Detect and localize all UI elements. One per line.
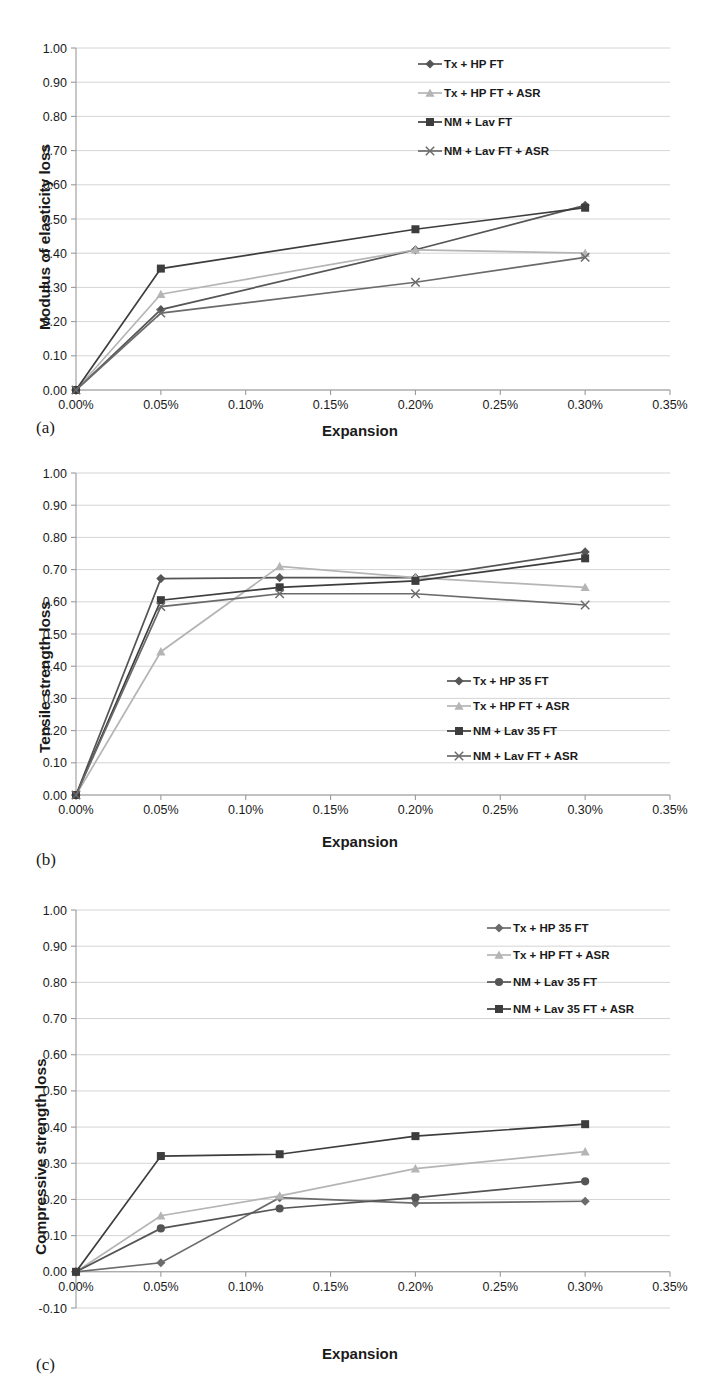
- panel-b-y-axis-title: Tensile strength loss: [36, 601, 54, 753]
- y-tick-label: 0.00: [43, 789, 67, 803]
- legend-label: NM + Lav FT + ASR: [444, 145, 550, 157]
- panel-a-label: (a): [36, 418, 55, 438]
- legend-label: Tx + HP 35 FT: [513, 922, 589, 934]
- legend-item[interactable]: NM + Lav FT + ASR: [447, 750, 579, 762]
- panel-c-chart-svg: 1.000.900.800.700.600.500.400.300.200.10…: [0, 880, 706, 1378]
- legend-item[interactable]: Tx + HP FT + ASR: [447, 700, 570, 712]
- panel-a-y-axis-title: Modulus of elasticity loss: [36, 144, 54, 330]
- legend-label: Tx + HP 35 FT: [473, 675, 549, 687]
- x-tick-label: 0.00%: [58, 398, 93, 412]
- y-tick-label: 0.90: [43, 499, 67, 513]
- y-tick-label: 0.00: [43, 384, 67, 398]
- y-tick-label: 1.00: [43, 904, 67, 918]
- legend-marker-diamond-icon: [494, 923, 503, 932]
- panel-b-figure: 1.000.900.800.700.600.500.400.300.200.10…: [0, 455, 706, 880]
- legend-label: NM + Lav FT: [444, 116, 512, 128]
- x-tick-label: 0.35%: [652, 1280, 687, 1294]
- data-point: [157, 265, 165, 273]
- x-tick-label: 0.30%: [567, 803, 602, 817]
- y-tick-label: 0.00: [43, 1265, 67, 1279]
- data-point: [411, 1132, 419, 1140]
- legend-item[interactable]: NM + Lav 35 FT: [487, 976, 597, 988]
- y-tick-label: 0.80: [43, 531, 67, 545]
- series-0: [71, 201, 589, 395]
- panel-c-x-axis-title: Expansion: [280, 1345, 440, 1362]
- series-line: [76, 594, 585, 795]
- legend-item[interactable]: NM + Lav 35 FT + ASR: [487, 1003, 635, 1015]
- panel-a-chart-svg: 1.000.900.800.700.600.500.400.300.200.10…: [0, 0, 706, 455]
- legend-item[interactable]: Tx + HP 35 FT: [447, 675, 549, 687]
- data-point: [411, 225, 419, 233]
- y-tick-label: 0.70: [43, 563, 67, 577]
- series-line: [76, 1152, 585, 1272]
- panel-b-chart-svg: 1.000.900.800.700.600.500.400.300.200.10…: [0, 455, 706, 880]
- y-tick-label: 0.80: [43, 110, 67, 124]
- legend-item[interactable]: NM + Lav 35 FT: [447, 725, 557, 737]
- data-point: [72, 1268, 80, 1276]
- legend-label: NM + Lav 35 FT: [513, 976, 597, 988]
- series-1: [71, 1147, 589, 1275]
- data-point: [581, 1177, 589, 1185]
- series-3: [72, 253, 590, 394]
- data-point: [275, 573, 284, 582]
- legend-item[interactable]: NM + Lav FT + ASR: [418, 145, 550, 157]
- panel-a-figure: 1.000.900.800.700.600.500.400.300.200.10…: [0, 0, 706, 455]
- panel-a-x-axis-title: Expansion: [280, 422, 440, 439]
- gridlines: [76, 48, 670, 390]
- data-point: [156, 574, 165, 583]
- series-line: [76, 1181, 585, 1271]
- data-point: [276, 1150, 284, 1158]
- x-tick-label: 0.25%: [483, 803, 518, 817]
- series-3: [72, 1120, 589, 1276]
- y-tick-label: 1.00: [43, 42, 67, 56]
- gridlines: [76, 910, 670, 1308]
- legend-label: NM + Lav FT + ASR: [473, 750, 579, 762]
- y-tick-label: 0.90: [43, 76, 67, 90]
- panel-c-y-axis-title: Compressive strength loss: [32, 1059, 50, 1255]
- series-line: [76, 1124, 585, 1272]
- legend-marker-square-icon: [426, 118, 434, 126]
- data-point: [156, 1258, 165, 1267]
- legend-item[interactable]: Tx + HP FT + ASR: [418, 87, 541, 99]
- series-3: [72, 590, 590, 800]
- x-tick-label: 0.35%: [652, 803, 687, 817]
- gridlines: [76, 473, 670, 795]
- series-line: [76, 205, 585, 390]
- x-tick-label: 0.05%: [143, 1280, 178, 1294]
- x-tick-label: 0.10%: [228, 1280, 263, 1294]
- x-tick-label: 0.15%: [313, 1280, 348, 1294]
- legend-item[interactable]: Tx + HP 35 FT: [487, 922, 589, 934]
- legend-label: Tx + HP FT + ASR: [444, 87, 541, 99]
- x-axis-ticks: 0.00%0.05%0.10%0.15%0.20%0.25%0.30%0.35%: [58, 795, 687, 817]
- x-tick-label: 0.05%: [143, 398, 178, 412]
- legend-marker-circle-icon: [495, 978, 503, 986]
- data-point: [581, 554, 589, 562]
- legend-label: Tx + HP FT + ASR: [473, 700, 570, 712]
- x-tick-label: 0.15%: [313, 803, 348, 817]
- data-point: [411, 577, 419, 585]
- panel-c-label: (c): [36, 1355, 55, 1375]
- x-tick-label: 0.25%: [483, 398, 518, 412]
- series-line: [76, 257, 585, 390]
- legend-item[interactable]: NM + Lav FT: [418, 116, 512, 128]
- legend-marker-square-icon: [495, 1005, 503, 1013]
- legend-item[interactable]: Tx + HP FT + ASR: [487, 949, 610, 961]
- legend-label: Tx + HP FT: [444, 58, 504, 70]
- x-tick-label: 0.00%: [58, 803, 93, 817]
- y-tick-label: 1.00: [43, 467, 67, 481]
- legend-marker-diamond-icon: [454, 676, 463, 685]
- series-line: [76, 208, 585, 390]
- data-point: [581, 204, 589, 212]
- x-tick-label: 0.20%: [398, 803, 433, 817]
- legend-item[interactable]: Tx + HP FT: [418, 58, 504, 70]
- legend-label: Tx + HP FT + ASR: [513, 949, 610, 961]
- series-2: [72, 204, 589, 394]
- series-line: [76, 1198, 585, 1272]
- y-tick-label: 0.90: [43, 940, 67, 954]
- legend-marker-square-icon: [455, 727, 463, 735]
- y-tick-label: -0.10: [39, 1302, 68, 1316]
- x-tick-label: 0.10%: [228, 803, 263, 817]
- y-tick-label: 0.10: [43, 349, 67, 363]
- x-axis-ticks: 0.00%0.05%0.10%0.15%0.20%0.25%0.30%0.35%: [58, 1272, 687, 1294]
- x-tick-label: 0.30%: [567, 398, 602, 412]
